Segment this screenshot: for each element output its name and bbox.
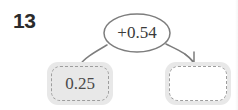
- output-arrowhead-icon: [185, 52, 194, 62]
- answer-box-dashed-border: [169, 66, 227, 101]
- start-value-box: 0.25: [47, 62, 113, 105]
- worksheet-problem-panel: 13 +0.54 0.25: [0, 0, 238, 110]
- output-arrow-line: [166, 44, 193, 62]
- answer-input-box[interactable]: [165, 62, 231, 105]
- operation-label: +0.54: [104, 14, 170, 52]
- start-value-text: 0.25: [65, 74, 95, 94]
- scan-edge-artifact: [235, 0, 238, 110]
